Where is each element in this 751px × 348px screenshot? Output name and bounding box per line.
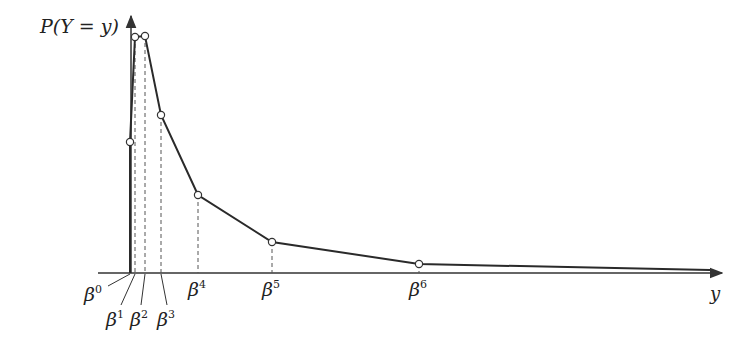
data-points: [126, 32, 422, 267]
tick-beta4: β4: [187, 278, 206, 300]
point-beta6: [415, 260, 422, 267]
tick-beta1: β1: [105, 308, 124, 330]
tick-beta5: β5: [261, 278, 280, 300]
point-beta2: [141, 32, 148, 39]
y-axis-label: P(Y = y): [39, 15, 119, 37]
point-beta5: [268, 238, 275, 245]
drop-lines: [135, 36, 419, 273]
x-axis-label: y: [709, 283, 721, 304]
point-beta4: [194, 191, 201, 198]
probability-chart: P(Y = y) y β0 β1 β2 β3 β4 β5 β6: [0, 0, 751, 348]
tick-beta2: β2: [129, 308, 148, 330]
point-beta3: [157, 111, 164, 118]
point-beta1: [131, 33, 138, 40]
tick-beta3: β3: [156, 308, 175, 330]
point-beta0: [126, 138, 133, 145]
probability-curve: [130, 36, 710, 273]
tick-beta6: β6: [408, 278, 427, 300]
label-leaders: [108, 274, 167, 305]
tick-beta0: β0: [83, 283, 102, 305]
